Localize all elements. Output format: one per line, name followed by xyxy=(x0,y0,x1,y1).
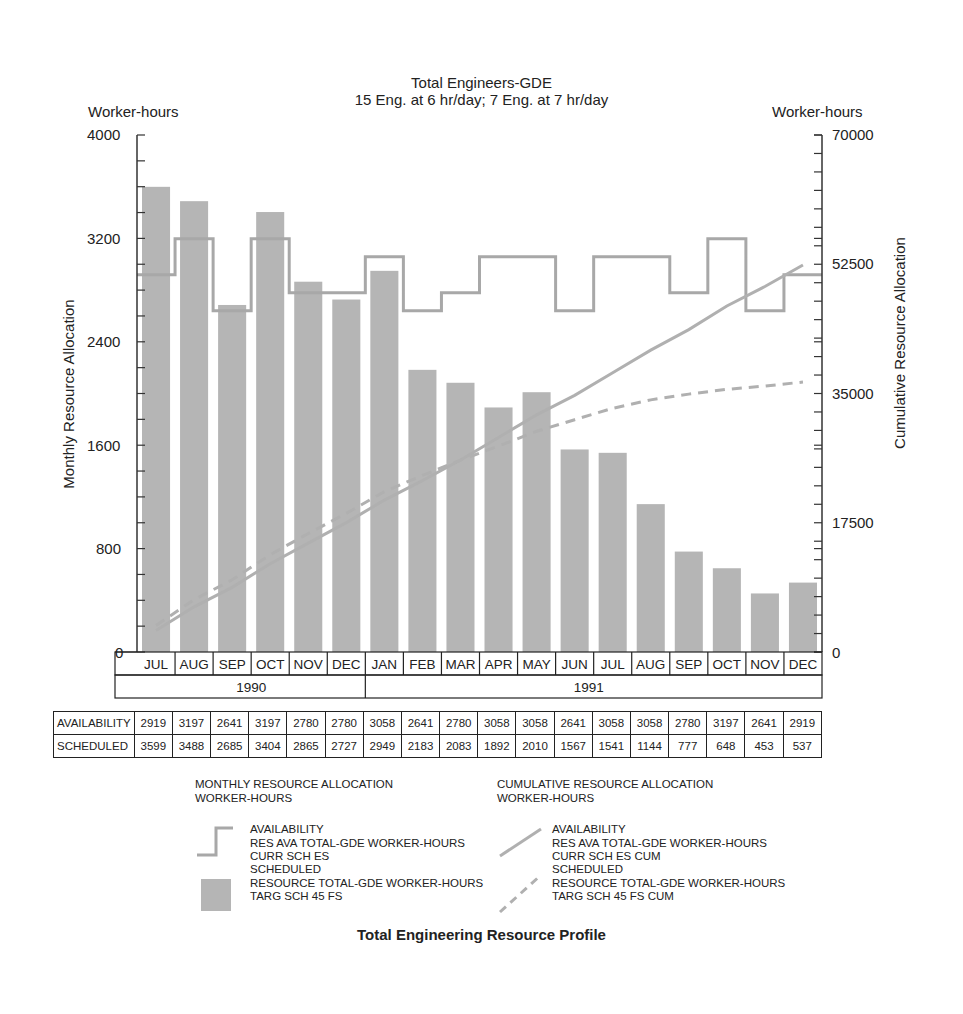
availability-step-legend-icon xyxy=(195,822,235,862)
legend-monthly-availability: AVAILABILITY RES AVA TOTAL-GDE WORKER-HO… xyxy=(250,823,465,864)
scheduled-bar-legend-icon xyxy=(201,879,231,911)
table-cell: 2780 xyxy=(325,712,363,735)
cumulative-lines xyxy=(156,265,803,630)
table-row: SCHEDULED3599348826853404286527272949218… xyxy=(54,735,822,758)
scheduled-bar xyxy=(408,370,436,652)
row-header: AVAILABILITY xyxy=(54,712,135,735)
legend-monthly-scheduled: SCHEDULED RESOURCE TOTAL-GDE WORKER-HOUR… xyxy=(250,863,483,904)
cumulative-scheduled-line xyxy=(156,382,803,625)
availability-step-line xyxy=(137,239,822,311)
table-cell: 2780 xyxy=(287,712,325,735)
scheduled-bar xyxy=(561,449,589,652)
table-cell: 2083 xyxy=(440,735,478,758)
month-label: AUG xyxy=(179,657,208,672)
scheduled-bar xyxy=(713,568,741,652)
scheduled-bar xyxy=(599,453,627,652)
table-row: AVAILABILITY2919319726413197278027803058… xyxy=(54,712,822,735)
month-label: JUL xyxy=(144,657,168,672)
table-cell: 1567 xyxy=(554,735,592,758)
table-cell: 3404 xyxy=(249,735,287,758)
table-cell: 1144 xyxy=(630,735,668,758)
month-row: JULAUGSEPOCTNOVDECJANFEBMARAPRMAYJUNJULA… xyxy=(115,652,822,698)
month-label: DEC xyxy=(789,657,818,672)
table-cell: 2641 xyxy=(401,712,439,735)
year-label: 1991 xyxy=(574,680,604,695)
legend-cumulative-heading: CUMULATIVE RESOURCE ALLOCATION WORKER-HO… xyxy=(497,778,713,805)
cumulative-availability-legend-icon xyxy=(497,822,547,862)
scheduled-bar xyxy=(637,504,665,652)
row-header: SCHEDULED xyxy=(54,735,135,758)
scheduled-bar xyxy=(370,271,398,652)
availability-line xyxy=(137,239,822,311)
cumulative-availability-line xyxy=(156,265,803,630)
figure-caption: Total Engineering Resource Profile xyxy=(0,926,963,943)
month-label: APR xyxy=(485,657,513,672)
month-label: MAR xyxy=(445,657,475,672)
month-label: MAY xyxy=(522,657,550,672)
table-cell: 3058 xyxy=(630,712,668,735)
table-cell: 777 xyxy=(669,735,707,758)
table-cell: 1541 xyxy=(592,735,630,758)
scheduled-bar xyxy=(180,201,208,652)
month-label: JUN xyxy=(562,657,588,672)
table-cell: 3488 xyxy=(172,735,210,758)
table-cell: 2865 xyxy=(287,735,325,758)
month-label: OCT xyxy=(713,657,742,672)
table-cell: 2183 xyxy=(401,735,439,758)
table-cell: 537 xyxy=(783,735,821,758)
scheduled-bar xyxy=(332,300,360,652)
table-cell: 2919 xyxy=(134,712,172,735)
table-cell: 2727 xyxy=(325,735,363,758)
table-cell: 3058 xyxy=(363,712,401,735)
table-cell: 2919 xyxy=(783,712,821,735)
scheduled-bar xyxy=(675,552,703,652)
table-cell: 3599 xyxy=(134,735,172,758)
table-cell: 1892 xyxy=(478,735,516,758)
month-label: NOV xyxy=(294,657,323,672)
table-cell: 3197 xyxy=(249,712,287,735)
table-cell: 3197 xyxy=(172,712,210,735)
table-cell: 2685 xyxy=(211,735,249,758)
month-label: AUG xyxy=(636,657,665,672)
month-label: FEB xyxy=(409,657,435,672)
plot-area: JULAUGSEPOCTNOVDECJANFEBMARAPRMAYJUNJULA… xyxy=(0,0,963,700)
table-cell: 3058 xyxy=(592,712,630,735)
scheduled-bar xyxy=(218,305,246,652)
table-cell: 2641 xyxy=(211,712,249,735)
scheduled-bar xyxy=(751,593,779,652)
table-cell: 3058 xyxy=(516,712,554,735)
month-label: OCT xyxy=(256,657,285,672)
scheduled-bar xyxy=(142,187,170,652)
month-label: JAN xyxy=(372,657,398,672)
table-cell: 2641 xyxy=(745,712,783,735)
table-cell: 2949 xyxy=(363,735,401,758)
table-cell: 2780 xyxy=(440,712,478,735)
scheduled-bar xyxy=(256,212,284,652)
legend-monthly-heading: MONTHLY RESOURCE ALLOCATION WORKER-HOURS xyxy=(195,778,393,805)
table-cell: 2010 xyxy=(516,735,554,758)
table-cell: 2780 xyxy=(669,712,707,735)
data-table: AVAILABILITY2919319726413197278027803058… xyxy=(53,711,822,758)
month-label: JUL xyxy=(601,657,625,672)
scheduled-bar xyxy=(294,282,322,652)
year-label: 1990 xyxy=(236,680,266,695)
month-label: SEP xyxy=(219,657,246,672)
table-cell: 3058 xyxy=(478,712,516,735)
scheduled-bar xyxy=(446,383,474,652)
legend-cumulative-scheduled: SCHEDULED RESOURCE TOTAL-GDE WORKER-HOUR… xyxy=(552,863,785,904)
month-label: DEC xyxy=(332,657,361,672)
month-label: NOV xyxy=(750,657,779,672)
table-cell: 648 xyxy=(707,735,745,758)
table-cell: 453 xyxy=(745,735,783,758)
month-label: SEP xyxy=(675,657,702,672)
legend-cumulative-availability: AVAILABILITY RES AVA TOTAL-GDE WORKER-HO… xyxy=(552,823,767,864)
table-cell: 3197 xyxy=(707,712,745,735)
scheduled-bar xyxy=(789,583,817,652)
table-cell: 2641 xyxy=(554,712,592,735)
cumulative-scheduled-legend-icon xyxy=(497,870,547,916)
